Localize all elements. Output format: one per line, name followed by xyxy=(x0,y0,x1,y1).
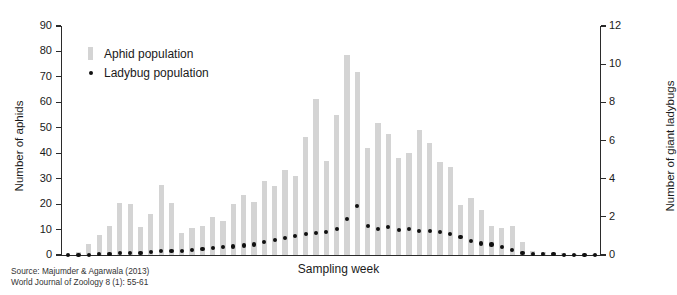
bar-aphid-population xyxy=(417,130,422,255)
bar-aphid-population xyxy=(272,186,277,255)
dot-ladybug-population xyxy=(66,253,70,257)
dot-ladybug-population xyxy=(200,247,204,251)
y-axis-right-tick xyxy=(601,140,606,141)
y-axis-left-tick xyxy=(56,178,61,179)
dot-ladybug-population xyxy=(345,217,349,221)
bar-aphid-population xyxy=(293,176,298,255)
bar-aphid-population xyxy=(489,226,494,255)
dot-ladybug-population xyxy=(283,236,287,240)
y-axis-left-tick-label: 90 xyxy=(28,20,52,31)
dot-ladybug-population xyxy=(87,253,91,257)
bar-aphid-population xyxy=(282,170,287,255)
bar-aphid-population xyxy=(128,204,133,255)
bar-aphid-population xyxy=(303,137,308,255)
y-axis-left-tick-label: 60 xyxy=(28,96,52,107)
bar-aphid-population xyxy=(220,221,225,255)
y-axis-left-tick xyxy=(56,153,61,154)
bar-aphid-population xyxy=(159,185,164,255)
dot-ladybug-population xyxy=(520,251,524,255)
bar-aphid-population xyxy=(117,203,122,255)
y-axis-left-tick xyxy=(56,76,61,77)
y-axis-left-tick xyxy=(56,127,61,128)
bar-aphid-population xyxy=(344,55,349,255)
dot-ladybug-population xyxy=(489,242,493,246)
dot-ladybug-population xyxy=(76,253,80,257)
y-axis-left-tick-label: 80 xyxy=(28,45,52,56)
dot-ladybug-population xyxy=(469,239,473,243)
bar-aphid-population xyxy=(448,167,453,255)
source-line-2: World Journal of Zoology 8 (1): 55-61 xyxy=(11,277,149,288)
y-axis-left-tick-label: 50 xyxy=(28,122,52,133)
dot-ladybug-population xyxy=(118,251,122,255)
bar-aphid-population xyxy=(148,214,153,255)
bar-aphid-population xyxy=(375,123,380,255)
y-axis-right-tick-label: 2 xyxy=(609,211,615,222)
y-axis-left-tick xyxy=(56,102,61,103)
y-axis-right-tick-label: 10 xyxy=(609,58,621,69)
bar-aphid-population xyxy=(427,143,432,255)
y-axis-left-tick-label: 10 xyxy=(28,224,52,235)
dot-ladybug-population xyxy=(149,250,153,254)
bar-aphid-population xyxy=(499,228,504,255)
source-line-1: Source: Majumder & Agarwala (2013) xyxy=(11,266,149,277)
y-axis-right-tick xyxy=(601,216,606,217)
dot-ladybug-population xyxy=(273,238,277,242)
dot-ladybug-population xyxy=(593,253,597,257)
dot-ladybug-population xyxy=(138,251,142,255)
y-axis-left-tick-label: 40 xyxy=(28,147,52,158)
dot-ladybug-population xyxy=(551,252,555,256)
plot-area xyxy=(63,26,600,255)
dot-ladybug-population xyxy=(428,229,432,233)
y-axis-right-tick xyxy=(601,25,606,26)
bar-aphid-population xyxy=(468,198,473,255)
y-axis-right-tick xyxy=(601,178,606,179)
dot-ladybug-population xyxy=(582,253,586,257)
dot-ladybug-population xyxy=(169,249,173,253)
y-axis-right-tick-label: 4 xyxy=(609,173,615,184)
bar-aphid-population xyxy=(107,226,112,255)
dot-ladybug-population xyxy=(458,235,462,239)
y-axis-right-tick xyxy=(601,64,606,65)
dot-ladybug-population xyxy=(572,253,576,257)
y-axis-left-tick xyxy=(56,51,61,52)
y-axis-right-tick xyxy=(601,254,606,255)
bar-aphid-population xyxy=(355,72,360,255)
dot-ladybug-population xyxy=(397,228,401,232)
dot-ladybug-population xyxy=(242,243,246,247)
bar-aphid-population xyxy=(251,202,256,255)
y-axis-right-tick-label: 0 xyxy=(609,249,615,260)
dot-ladybug-population xyxy=(479,241,483,245)
bar-aphid-population xyxy=(169,203,174,255)
y-axis-right-tick-label: 12 xyxy=(609,20,621,31)
y-axis-left-tick-label: 20 xyxy=(28,198,52,209)
bar-aphid-population xyxy=(324,161,329,255)
chart-figure: 0102030405060708090 024681012 Number of … xyxy=(0,0,677,295)
bar-aphid-population xyxy=(479,210,484,255)
y-axis-left-tick xyxy=(56,25,61,26)
y-axis-left-tick-label: 0 xyxy=(28,249,52,260)
y-axis-left-tick-label: 30 xyxy=(28,173,52,184)
bar-aphid-population xyxy=(365,148,370,255)
bar-aphid-population xyxy=(396,158,401,255)
dot-ladybug-population xyxy=(107,252,111,256)
y-axis-left-tick xyxy=(56,229,61,230)
y-axis-left-title: Number of aphids xyxy=(13,86,25,206)
y-axis-right-tick xyxy=(601,102,606,103)
bar-aphid-population xyxy=(437,162,442,255)
dot-ladybug-population xyxy=(304,232,308,236)
x-axis-line xyxy=(61,255,601,256)
dot-ladybug-population xyxy=(562,253,566,257)
y-axis-right-title: Number of giant ladybugs xyxy=(664,71,676,221)
y-axis-right-tick-label: 6 xyxy=(609,135,615,146)
bar-aphid-population xyxy=(458,205,463,255)
y-axis-right-tick-label: 8 xyxy=(609,96,615,107)
bar-aphid-population xyxy=(406,153,411,255)
y-axis-left-tick-label: 70 xyxy=(28,71,52,82)
bar-aphid-population xyxy=(334,115,339,255)
dot-ladybug-population xyxy=(252,242,256,246)
y-axis-left-tick xyxy=(56,204,61,205)
y-axis-left-tick xyxy=(56,254,61,255)
source-caption: Source: Majumder & Agarwala (2013) World… xyxy=(11,266,149,287)
bar-aphid-population xyxy=(386,134,391,255)
bar-aphid-population xyxy=(262,181,267,255)
